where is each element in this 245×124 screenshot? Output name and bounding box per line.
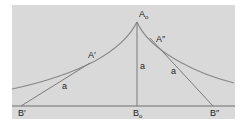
label-apex: Ao	[139, 10, 148, 20]
tangent-right	[150, 38, 213, 106]
label-right-base: B″	[210, 109, 219, 118]
label-right-segment: a	[171, 67, 176, 76]
label-center-base: Bo	[133, 109, 142, 119]
label-right-touch: A″	[156, 35, 165, 44]
label-left-touch: A′	[88, 51, 96, 60]
tractrix-curve-right	[137, 22, 234, 83]
label-left-base: B′	[18, 109, 26, 118]
tractrix-figure	[0, 0, 245, 124]
label-left-segment: a	[62, 82, 67, 91]
label-center-segment: a	[140, 62, 145, 71]
tractrix-curve-left	[12, 22, 137, 89]
